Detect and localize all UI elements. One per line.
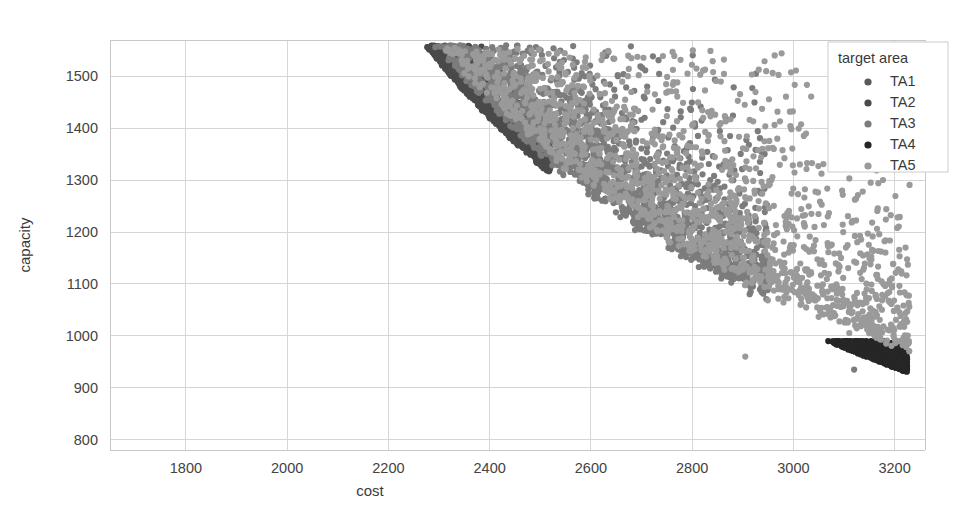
legend-label-ta5[interactable]: TA5 (890, 157, 916, 173)
data-point (741, 260, 747, 266)
data-point (839, 291, 845, 297)
data-point (656, 71, 662, 77)
data-point (555, 49, 561, 55)
legend-label-ta3[interactable]: TA3 (890, 115, 916, 131)
data-point (650, 187, 656, 193)
data-point (787, 123, 793, 129)
legend-marker-ta2[interactable] (864, 99, 871, 106)
data-point (770, 145, 776, 151)
data-point (626, 197, 632, 203)
data-point (635, 198, 641, 204)
data-point (658, 182, 664, 188)
data-point (770, 268, 776, 274)
data-point (598, 145, 604, 151)
data-point (472, 75, 478, 81)
data-point (553, 110, 559, 116)
data-point (600, 52, 606, 58)
legend-marker-ta4[interactable] (864, 141, 871, 148)
data-point (750, 153, 756, 159)
data-point (585, 163, 591, 169)
data-point (670, 67, 676, 73)
data-point (677, 57, 683, 63)
data-point (876, 231, 882, 237)
data-point (743, 196, 749, 202)
data-point (853, 260, 859, 266)
outlier-point (851, 366, 857, 372)
data-point (766, 205, 772, 211)
data-point (551, 101, 557, 107)
data-point (824, 185, 830, 191)
data-point (794, 233, 800, 239)
data-point (874, 226, 880, 232)
legend-marker-ta1[interactable] (864, 78, 871, 85)
data-point (642, 115, 648, 121)
data-point (591, 182, 597, 188)
legend-label-ta1[interactable]: TA1 (890, 73, 916, 89)
data-point (819, 202, 825, 208)
data-point (765, 297, 771, 303)
data-point (821, 222, 827, 228)
data-point (871, 356, 877, 362)
data-point (736, 185, 742, 191)
data-point (679, 217, 685, 223)
data-point (686, 227, 692, 233)
data-point (875, 205, 881, 211)
data-point (733, 172, 739, 178)
data-point (524, 80, 530, 86)
data-point (712, 154, 718, 160)
data-point (545, 61, 551, 67)
data-point (533, 128, 539, 134)
data-point (779, 50, 785, 56)
legend-marker-ta5[interactable] (864, 162, 871, 169)
data-point (631, 128, 637, 134)
data-point (446, 66, 452, 72)
data-point (652, 91, 658, 97)
data-point (593, 192, 599, 198)
data-point (892, 340, 898, 346)
data-point (706, 161, 712, 167)
data-point (867, 261, 873, 267)
data-point (808, 211, 814, 217)
data-point (597, 150, 603, 156)
data-point (808, 94, 814, 100)
data-point (791, 227, 797, 233)
data-point (721, 267, 727, 273)
data-point (612, 124, 618, 130)
data-point (742, 227, 748, 233)
data-point (612, 195, 618, 201)
data-point (660, 143, 666, 149)
data-point (722, 113, 728, 119)
data-point (503, 65, 509, 71)
data-point (839, 286, 845, 292)
data-point (669, 49, 675, 55)
data-point (541, 120, 547, 126)
data-point (779, 270, 785, 276)
data-point (676, 182, 682, 188)
legend-label-ta4[interactable]: TA4 (890, 136, 916, 152)
legend-label-ta2[interactable]: TA2 (890, 94, 916, 110)
data-point (541, 127, 547, 133)
data-point (759, 191, 765, 197)
data-point (900, 362, 906, 368)
data-point (718, 275, 724, 281)
data-point (569, 142, 575, 148)
data-point (693, 177, 699, 183)
data-point (785, 295, 791, 301)
data-point (767, 260, 773, 266)
data-point (633, 160, 639, 166)
data-point (505, 129, 511, 135)
plot-canvas[interactable]: 18002000220024002600280030003200 8009001… (0, 0, 975, 511)
data-point (896, 247, 902, 253)
data-point (728, 245, 734, 251)
data-point (591, 174, 597, 180)
legend-marker-ta3[interactable] (864, 120, 871, 127)
data-point (654, 166, 660, 172)
data-point (773, 222, 779, 228)
data-point (543, 143, 549, 149)
x-tick-label: 2400 (474, 460, 506, 476)
data-point (580, 147, 586, 153)
data-point (896, 283, 902, 289)
data-point (846, 309, 852, 315)
legend[interactable]: target areaTA1TA2TA3TA4TA5 (828, 42, 948, 173)
data-point (567, 106, 573, 112)
